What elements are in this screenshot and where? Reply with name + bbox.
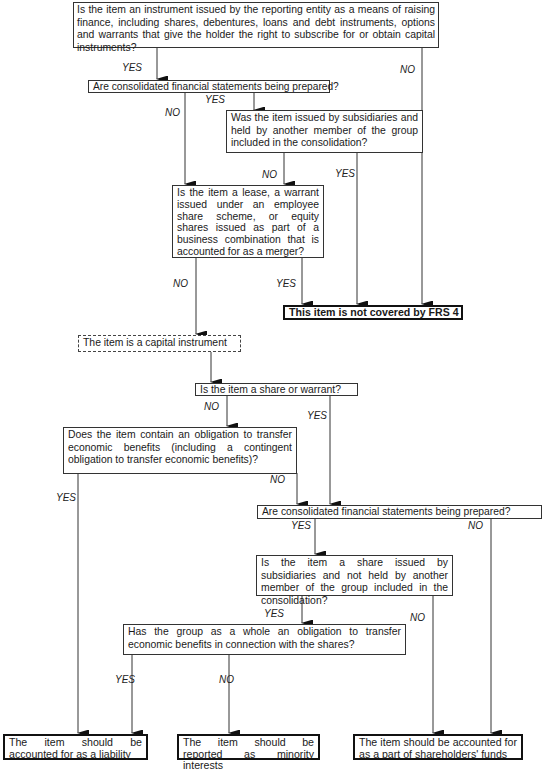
edge-label-yes: YES (115, 674, 135, 685)
question-obligation-transfer-box: Does the item contain an obligation to t… (63, 427, 297, 474)
edge-label-no: NO (270, 474, 285, 485)
result-liability-box: The item should be accounted for as a li… (3, 734, 148, 760)
edge-label-yes: YES (205, 94, 225, 105)
edge-label-no: NO (410, 612, 425, 623)
statement-capital-instrument-box: The item is a capital instrument (78, 335, 241, 352)
question-share-by-subsidiaries-box: Is the item a share issued by subsidiari… (256, 555, 453, 596)
edge-label-no: NO (173, 278, 188, 289)
edge-label-yes: YES (56, 492, 76, 503)
question-share-or-warrant-box: Is the item a share or warrant? (195, 383, 358, 396)
question-instrument-box: Is the item an instrument issued by the … (73, 2, 439, 48)
question-group-obligation-box: Has the group as a whole an obligation t… (123, 624, 406, 655)
edge-label-yes: YES (264, 608, 284, 619)
question-consolidated-2-box: Are consolidated financial statements be… (257, 505, 542, 519)
edge-label-yes: YES (335, 168, 355, 179)
edge-label-yes: YES (307, 410, 327, 421)
edge-label-no: NO (262, 169, 277, 180)
result-shareholders-funds-box: The item should be accounted for as a pa… (353, 734, 523, 760)
result-not-covered-box: This item is not covered by FRS 4 (283, 305, 463, 320)
edge-label-no: NO (468, 520, 483, 531)
edge-label-yes: YES (122, 62, 142, 73)
edge-label-no: NO (219, 674, 234, 685)
edge-label-yes: YES (291, 520, 311, 531)
question-issued-by-subsidiaries-box: Was the item issued by subsidiaries and … (226, 110, 423, 153)
result-minority-interests-box: The item should be reported as minority … (177, 734, 320, 760)
question-consolidated-1-box: Are consolidated financial statements be… (88, 80, 330, 93)
edge-label-no: NO (400, 64, 415, 75)
question-lease-warrant-merger-box: Is the item a lease, a warrant issued un… (172, 185, 324, 258)
edge-label-no: NO (204, 401, 219, 412)
edge-label-yes: YES (276, 278, 296, 289)
edge-label-no: NO (165, 107, 180, 118)
